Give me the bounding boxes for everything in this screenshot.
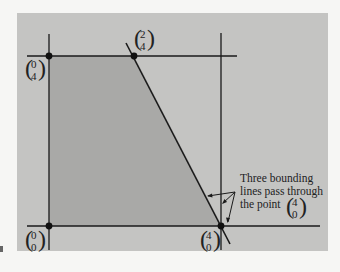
vertex-dot-0-0 [46,223,53,230]
vertex-dot-0-4 [46,53,53,60]
label-top: 0 [31,229,37,241]
label-bottom: 4 [31,70,37,82]
annotation-point-bottom: 0 [292,208,298,220]
label-top: 0 [31,58,37,70]
svg-text:): ) [38,226,46,252]
svg-text:): ) [299,193,307,219]
annotation-line-1: Three bounding [240,172,313,185]
vector-label-0-4: ( 0 4 ) [25,55,46,82]
vertex-dot-2-4 [131,53,138,60]
svg-text:): ) [38,55,46,81]
feasible-region-diagram: ( 0 4 ) ( 2 4 ) ( 0 0 ) ( 4 0 ) Three bo… [0,0,340,272]
label-bottom: 0 [206,241,212,253]
annotation-line-2: lines pass through [240,185,323,198]
label-bottom: 0 [31,241,37,253]
annotation-line-3: the point [240,198,281,211]
svg-text:): ) [147,25,155,51]
vector-label-4-0: ( 4 0 ) [200,226,221,253]
svg-text:): ) [213,226,221,252]
label-bottom: 4 [140,40,146,52]
vector-label-2-4: ( 2 4 ) [134,25,155,52]
label-top: 2 [140,28,146,40]
vector-label-0-0: ( 0 0 ) [25,226,46,253]
label-top: 4 [206,229,212,241]
annotation-point-top: 4 [292,196,298,208]
page-edge-mark [0,246,3,252]
